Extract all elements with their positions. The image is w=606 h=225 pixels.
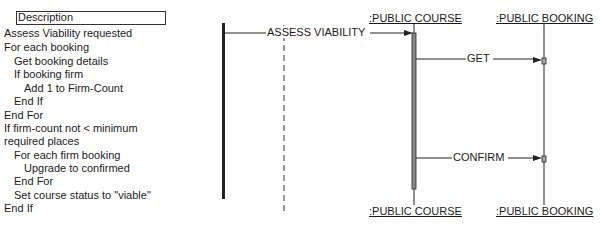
object-public-booking-top: :PUBLIC BOOKING (496, 12, 593, 24)
arrow-head-icon (533, 57, 542, 63)
message-get: GET (466, 52, 491, 64)
object-public-course-bottom: :PUBLIC COURSE (369, 205, 462, 217)
booking-activation-confirm (542, 156, 546, 162)
object-public-booking-bottom: :PUBLIC BOOKING (496, 205, 593, 217)
booking-activation-get (542, 58, 546, 64)
arrow-head-icon (533, 155, 542, 161)
system-boundary-bar (222, 23, 225, 199)
message-assess-viability: ASSESS VIABILITY (266, 26, 366, 38)
message-confirm: CONFIRM (452, 151, 505, 163)
course-activation-bar (412, 33, 416, 189)
object-public-course-top: :PUBLIC COURSE (369, 12, 462, 24)
